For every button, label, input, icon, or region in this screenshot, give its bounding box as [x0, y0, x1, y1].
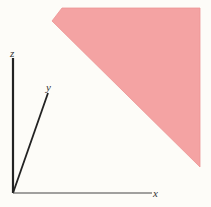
y-axis [13, 93, 48, 193]
x-axis-label: x [152, 187, 158, 199]
diagram-canvas: z y x [0, 0, 211, 207]
y-axis-label: y [45, 81, 51, 93]
shaded-plane [52, 8, 200, 167]
diagram-svg: z y x [0, 0, 211, 207]
z-axis-label: z [9, 47, 15, 59]
